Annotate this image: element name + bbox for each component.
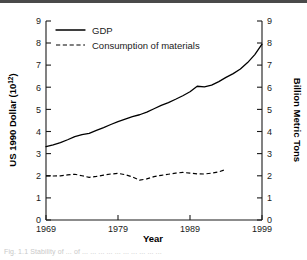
x-tick-label: 1979 <box>108 224 128 234</box>
left-tick-label: 1 <box>36 193 41 203</box>
right-tick-label: 5 <box>267 105 272 115</box>
legend-label-gdp: GDP <box>92 25 113 36</box>
right-tick-label: 3 <box>267 149 272 159</box>
y-axis-title-main: US 1990 Dollar (10 <box>7 84 18 167</box>
right-tick-label: 2 <box>267 171 272 181</box>
series-line-consumption <box>46 169 226 180</box>
y-axis-title-close: ) <box>7 73 18 76</box>
right-tick-label: 9 <box>267 16 272 26</box>
right-tick-label: 1 <box>267 193 272 203</box>
x-axis-title: Year <box>143 233 163 242</box>
left-tick-label: 7 <box>36 60 41 70</box>
line-chart: 0 1 2 3 4 5 6 7 8 9 0 1 2 <box>0 3 307 242</box>
right-tick-label: 7 <box>267 60 272 70</box>
x-axis-ticks <box>46 215 262 220</box>
y-axis-title: US 1990 Dollar (1012) <box>7 73 19 166</box>
legend-label-consumption: Consumption of materials <box>92 40 200 51</box>
series-line-gdp <box>46 44 262 146</box>
figure-caption-text: Fig. 1.1 Stability of ... of ... ... ...… <box>0 247 307 256</box>
right-tick-label: 4 <box>267 127 272 137</box>
right-axis-tick-labels: 0 1 2 3 4 5 6 7 8 9 <box>267 16 272 225</box>
x-tick-label: 1999 <box>252 224 272 234</box>
left-tick-label: 9 <box>36 16 41 26</box>
chart-figure: 0 1 2 3 4 5 6 7 8 9 0 1 2 <box>0 3 307 242</box>
figure-caption: Fig. 1.1 Stability of ... of ... ... ...… <box>0 247 307 260</box>
y2-axis-title: Billion Metric Tons <box>292 78 303 162</box>
left-tick-label: 6 <box>36 83 41 93</box>
chart-legend: GDP Consumption of materials <box>56 25 200 51</box>
x-tick-label: 1969 <box>36 224 56 234</box>
left-axis-tick-labels: 0 1 2 3 4 5 6 7 8 9 <box>36 16 41 225</box>
left-tick-label: 2 <box>36 171 41 181</box>
left-tick-label: 4 <box>36 127 41 137</box>
x-tick-label: 1989 <box>180 224 200 234</box>
left-tick-label: 8 <box>36 38 41 48</box>
right-tick-label: 6 <box>267 83 272 93</box>
left-tick-label: 5 <box>36 105 41 115</box>
left-axis-ticks <box>46 21 51 220</box>
plot-frame <box>46 21 262 220</box>
right-tick-label: 8 <box>267 38 272 48</box>
left-tick-label: 3 <box>36 149 41 159</box>
